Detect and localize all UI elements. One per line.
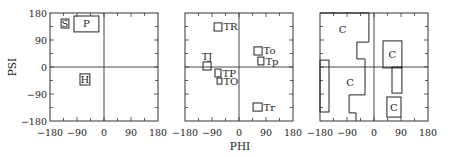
- region-label: C: [346, 77, 354, 88]
- region-box: [253, 103, 262, 111]
- region-label: S: [62, 18, 69, 29]
- region-label: P: [83, 18, 90, 29]
- x-tick-label: −90: [67, 127, 87, 138]
- x-tick-label: −180: [37, 127, 63, 138]
- ramachandran-figure: −180−90090180−180−90090180SPH−180−900901…: [0, 0, 451, 157]
- region-label: H: [81, 74, 90, 85]
- ramachandran-panel-3: −180−90090180CCCC: [307, 13, 437, 138]
- region-label: Tp: [265, 56, 278, 67]
- region-label: Tr: [264, 102, 276, 113]
- region-box: [320, 60, 329, 112]
- x-tick-label: 180: [149, 127, 167, 138]
- x-tick-label: 90: [125, 127, 137, 138]
- y-tick-label: 90: [35, 35, 47, 46]
- region-label: TR: [223, 21, 238, 32]
- x-tick-label: −90: [337, 127, 357, 138]
- x-tick-label: 180: [419, 127, 437, 138]
- region-box: [258, 57, 264, 65]
- y-tick-label: −180: [21, 116, 47, 127]
- ramachandran-panel-1: −180−90090180−180−90090180SPH: [21, 8, 167, 139]
- x-tick-label: 180: [284, 127, 302, 138]
- x-tick-label: −180: [307, 127, 333, 138]
- region-box: [254, 47, 262, 55]
- x-tick-label: 0: [236, 127, 242, 138]
- ramachandran-panel-2: −180−90090180TRToTpTJTPTOTr: [172, 13, 302, 138]
- x-tick-label: 0: [371, 127, 377, 138]
- x-tick-label: −180: [172, 127, 198, 138]
- region-label: TJ: [202, 51, 213, 62]
- y-tick-label: 0: [41, 62, 47, 73]
- y-axis-label: PSI: [6, 58, 18, 76]
- x-tick-label: 90: [260, 127, 272, 138]
- region-box: [215, 69, 221, 77]
- y-tick-label: −90: [27, 89, 47, 100]
- region-label: C: [339, 24, 347, 35]
- region-label: C: [389, 49, 397, 60]
- x-axis-label: PHI: [230, 140, 250, 152]
- region-box: [392, 67, 402, 93]
- region-box: [214, 23, 222, 31]
- x-tick-label: −90: [202, 127, 222, 138]
- region-box: [203, 62, 211, 70]
- x-tick-label: 90: [395, 127, 407, 138]
- region-label: C: [390, 102, 398, 113]
- region-box: [217, 78, 222, 84]
- x-tick-label: 0: [101, 127, 107, 138]
- region-label: TO: [223, 76, 238, 87]
- y-tick-label: 180: [29, 8, 47, 19]
